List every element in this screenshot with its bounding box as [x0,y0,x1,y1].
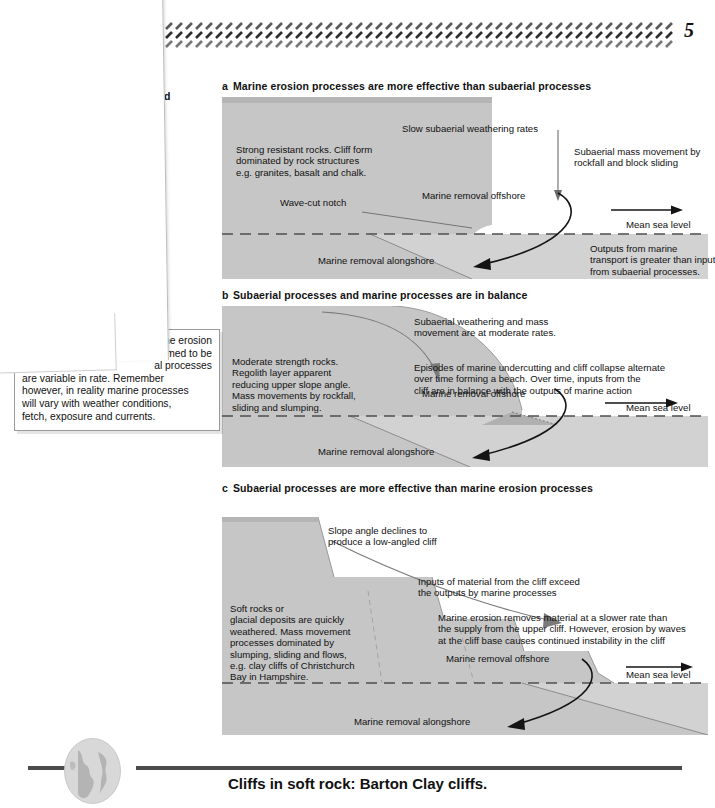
diagram-b-title-text: Subaerial processes and marine processes… [233,289,527,301]
footer-rule-right [136,766,682,770]
diagram-b-alongshore-label: Marine removal alongshore [318,446,434,457]
diagram-c-letter: c [222,482,233,494]
diagram-a-letter: a [222,80,233,92]
overlapping-page-sheet-corner [0,313,117,375]
note-line-4: are variable in rate. Remember [22,373,212,386]
diagram-b-weathering-label: Subaerial weathering and mass movement a… [414,316,556,339]
diagram-b: bSubaerial processes and marine processe… [222,289,708,467]
overlapping-page-sheet [0,0,169,364]
diagram-c-canvas: Slope angle declines to produce a low-an… [222,499,708,735]
diagram-a-rock-label: Strong resistant rocks. Cliff form domin… [236,144,372,178]
footer-caption: Cliffs in soft rock: Barton Clay cliffs. [228,775,487,792]
diagram-c: cSubaerial processes are more effective … [222,482,708,735]
diagram-c-offshore-label: Marine removal offshore [446,653,549,664]
diagram-c-sea-level-label: Mean sea level [626,669,691,680]
diagram-c-inputs-label: Inputs of material from the cliff exceed… [418,576,580,599]
diagram-b-canvas: Subaerial weathering and mass movement a… [222,306,708,467]
diagram-b-letter: b [222,289,233,301]
diagram-a-outputs-label: Outputs from marine transport is greater… [590,243,715,277]
diagram-a-alongshore-label: Marine removal alongshore [318,255,434,266]
diagram-c-title: cSubaerial processes are more effective … [222,482,708,494]
diagram-a-title-text: Marine erosion processes are more effect… [233,80,591,92]
note-line-6: will vary with weather conditions, [22,398,212,411]
note-line-7: fetch, exposure and currents. [22,411,212,424]
diagram-a-notch-label: Wave-cut notch [280,197,346,208]
page-number: 5 [684,19,694,42]
diagram-c-slope-angle-label: Slope angle declines to produce a low-an… [328,525,437,548]
diagram-b-sea-level-label: Mean sea level [626,402,691,413]
diagram-c-erosion-label: Marine erosion removes material at a slo… [438,612,686,646]
diagram-a-title: aMarine erosion processes are more effec… [222,80,708,92]
header-hatch-band [155,22,675,48]
note-line-5: however, in reality marine processes [22,385,212,398]
diagram-a: aMarine erosion processes are more effec… [222,80,708,279]
diagram-a-canvas: Strong resistant rocks. Cliff form domin… [222,97,708,279]
diagram-a-sea-level-label: Mean sea level [626,219,691,230]
diagram-b-rock-label: Moderate strength rocks. Regolith layer … [232,356,356,413]
diagram-b-offshore-label: Marine removal offshore [422,388,525,399]
diagram-a-offshore-label: Marine removal offshore [422,190,525,201]
diagram-b-title: bSubaerial processes and marine processe… [222,289,708,301]
diagram-c-rock-label: Soft rocks or glacial deposits are quick… [230,603,355,683]
diagram-c-alongshore-label: Marine removal alongshore [354,716,470,727]
note-line-3-text: al processes [154,360,212,373]
diagram-a-weathering-label: Slow subaerial weathering rates [402,123,538,134]
globe-icon [64,738,121,804]
diagram-a-mass-movement-label: Subaerial mass movement by rockfall and … [574,146,700,169]
diagram-c-title-text: Subaerial processes are more effective t… [233,482,593,494]
